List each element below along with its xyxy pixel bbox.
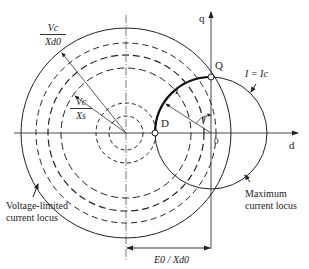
- i-equals-ic-label: I = Ic: [245, 68, 268, 79]
- i-ic-leader: [251, 84, 256, 92]
- e0-over-xd0-label: E0 / Xd0: [154, 254, 189, 265]
- point-D-label: D: [161, 118, 169, 129]
- gamma-label: γ: [203, 112, 207, 123]
- q-axis-label: q: [199, 13, 205, 24]
- inner-frac-denominator: Xs: [70, 110, 92, 121]
- inner-frac-numerator: Vc: [70, 96, 92, 107]
- max-locus-label-line2: current locus: [245, 200, 297, 211]
- current-I-label: I: [175, 85, 179, 96]
- outer-radius-label: Vc Xd0: [40, 22, 66, 47]
- origin-label: 0: [214, 136, 219, 147]
- voltage-locus-label-line2: current locus: [6, 212, 58, 223]
- outer-frac-denominator: Xd0: [40, 36, 66, 47]
- d-axis-label: d: [289, 140, 295, 151]
- outer-frac-numerator: Vc: [40, 22, 66, 33]
- point-Q: [208, 74, 214, 80]
- max-locus-label-line1: Maximum: [245, 188, 287, 199]
- voltage-locus-label-line1: Voltage-limited: [6, 200, 68, 211]
- point-D: [152, 130, 158, 136]
- point-Q-label: Q: [215, 60, 223, 71]
- inner-radius-label: Vc Xs: [70, 96, 92, 121]
- outer-radius-arrow: [62, 53, 126, 133]
